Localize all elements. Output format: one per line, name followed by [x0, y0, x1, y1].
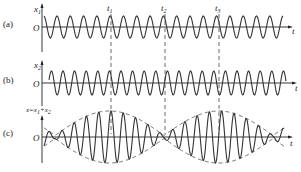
panel-a-xlabel: t	[292, 26, 295, 36]
panel-c-envelope-lower	[44, 139, 284, 163]
panel-c-xlabel: t	[290, 138, 293, 148]
panel-b-ylabel: x2	[33, 60, 41, 71]
panel-c: (c) x=x1+x2 O t	[3, 106, 293, 163]
panel-a: (a) x1 O t	[3, 3, 295, 52]
marker-t3-label: t3	[215, 3, 221, 14]
panel-a-y-arrow-icon	[41, 3, 44, 8]
panel-a-ylabel: x1	[33, 4, 41, 15]
panel-c-ylabel: x=x1+x2	[25, 106, 51, 115]
beat-diagram: (a) x1 O t (b) x2 O t (c) x=x1+x2 O	[0, 0, 301, 172]
panel-c-origin: O	[33, 133, 40, 143]
panel-b-y-arrow-icon	[41, 60, 44, 65]
panel-a-tag: (a)	[3, 19, 13, 29]
beat-figure-svg: (a) x1 O t (b) x2 O t (c) x=x1+x2 O	[0, 0, 301, 172]
panel-c-y-arrow-icon	[41, 115, 44, 120]
panel-a-origin: O	[33, 23, 40, 33]
panel-b-xlabel: t	[295, 83, 298, 93]
panel-c-tag: (c)	[3, 128, 13, 138]
marker-t2-label: t2	[161, 3, 167, 14]
panel-b-tag: (b)	[3, 75, 14, 85]
panel-b-origin: O	[33, 79, 40, 89]
marker-t1-label: t1	[107, 3, 113, 14]
marker-t3: t3	[215, 3, 221, 134]
panel-b: (b) x2 O t	[3, 60, 298, 106]
